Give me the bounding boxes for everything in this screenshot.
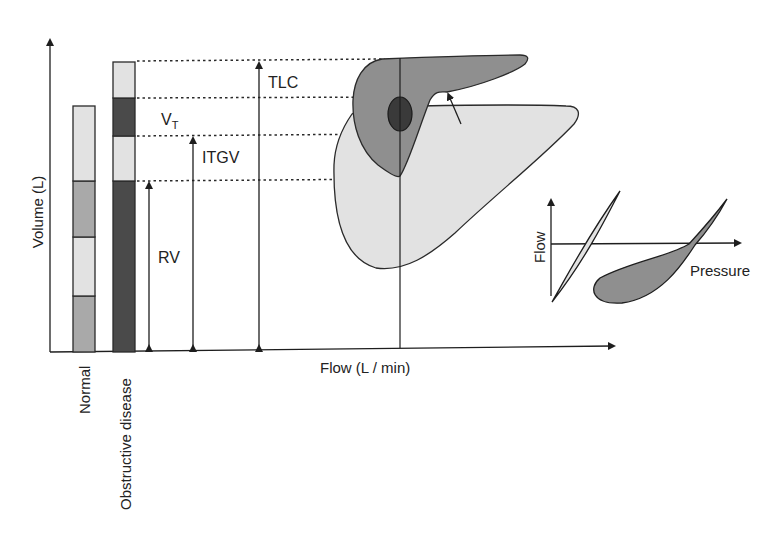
- bar-normal-segment-3: [73, 181, 95, 237]
- bar-normal: [73, 106, 95, 352]
- bar-normal-segment-1: [73, 296, 95, 352]
- respiratory-volume-flow-diagram: Volume (L) Flow (L / min) Normal Obstruc…: [0, 0, 773, 536]
- bar-obstructive-segment-3: [113, 98, 135, 136]
- rv-label: RV: [158, 249, 180, 266]
- bar-label-normal: Normal: [76, 366, 93, 414]
- inset-pressure-flow-plot: [551, 191, 738, 303]
- bar-obstructive: [113, 62, 135, 352]
- bar-obstructive-segment-4: [113, 62, 135, 98]
- inset-obstructive-loop: [594, 199, 727, 303]
- itgv-label: ITGV: [202, 149, 240, 166]
- bar-label-obstructive: Obstructive disease: [117, 378, 134, 510]
- bar-obstructive-segment-1: [113, 181, 135, 352]
- vt-label-main: V: [161, 111, 172, 128]
- inset-x-axis: [551, 243, 738, 244]
- volume-arrows: [149, 65, 259, 348]
- tlc-label: TLC: [268, 74, 298, 91]
- bar-normal-segment-2: [73, 237, 95, 296]
- bar-normal-segment-4: [73, 106, 95, 181]
- x-axis-label: Flow (L / min): [320, 359, 410, 376]
- inset-x-label: Pressure: [690, 262, 750, 279]
- guide-vt-top: [137, 97, 390, 98]
- guide-tlc: [137, 59, 385, 61]
- vt-label-subscript: T: [172, 119, 179, 131]
- vt-label: VT: [161, 111, 179, 131]
- bar-obstructive-segment-2: [113, 136, 135, 181]
- flow-volume-loops: [334, 55, 578, 348]
- y-axis-label: Volume (L): [29, 176, 46, 249]
- inset-y-label: Flow: [531, 231, 548, 263]
